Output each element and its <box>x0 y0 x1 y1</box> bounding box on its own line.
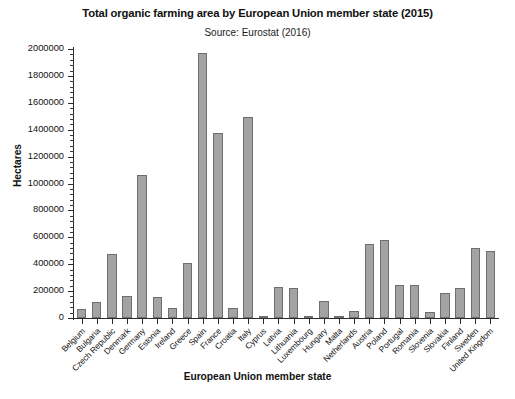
bar <box>198 53 207 318</box>
y-tick-label: 1600000 <box>0 97 64 107</box>
y-tick-label: 1000000 <box>0 178 64 188</box>
bar <box>92 302 101 318</box>
bar-chart: Total organic farming area by European U… <box>0 0 515 399</box>
bar <box>334 316 343 318</box>
x-tick <box>475 319 476 324</box>
bar <box>137 175 146 318</box>
y-tick-label: 1800000 <box>0 70 64 80</box>
x-tick <box>142 319 143 324</box>
bar <box>380 240 389 318</box>
bar <box>304 316 313 318</box>
x-tick <box>82 319 83 324</box>
x-tick <box>127 319 128 324</box>
bar <box>243 117 252 318</box>
bar <box>153 297 162 318</box>
x-tick <box>430 319 431 324</box>
y-tick-label: 1200000 <box>0 151 64 161</box>
x-tick <box>203 319 204 324</box>
bar <box>274 287 283 318</box>
x-tick <box>354 319 355 324</box>
x-tick <box>460 319 461 324</box>
y-tick-label: 1400000 <box>0 124 64 134</box>
plot-area <box>74 49 498 318</box>
x-tick <box>400 319 401 324</box>
bar <box>183 263 192 318</box>
x-tick <box>188 319 189 324</box>
y-tick-label: 600000 <box>0 231 64 241</box>
y-tick-label: 0 <box>0 312 64 322</box>
y-tick-label: 200000 <box>0 285 64 295</box>
x-tick <box>112 319 113 324</box>
bar <box>228 308 237 318</box>
y-tick-label: 2000000 <box>0 43 64 53</box>
bar <box>440 293 449 318</box>
bar <box>289 288 298 318</box>
x-tick <box>263 319 264 324</box>
bar <box>395 285 404 318</box>
bar <box>122 296 131 318</box>
bar <box>455 288 464 318</box>
x-tick <box>97 319 98 324</box>
x-tick <box>384 319 385 324</box>
x-tick <box>248 319 249 324</box>
x-tick <box>339 319 340 324</box>
bar <box>471 248 480 318</box>
x-axis-line <box>73 318 499 319</box>
y-tick-label: 800000 <box>0 204 64 214</box>
x-tick <box>490 319 491 324</box>
bar <box>259 316 268 318</box>
x-tick <box>157 319 158 324</box>
bar <box>213 133 222 318</box>
x-tick <box>218 319 219 324</box>
bar <box>77 309 86 318</box>
y-tick-label: 400000 <box>0 258 64 268</box>
bar <box>486 251 495 318</box>
bar <box>410 285 419 318</box>
x-tick <box>233 319 234 324</box>
x-tick <box>415 319 416 324</box>
x-tick <box>172 319 173 324</box>
bar <box>107 254 116 318</box>
bar <box>365 244 374 318</box>
bar <box>168 308 177 318</box>
chart-subtitle: Source: Eurostat (2016) <box>0 27 515 38</box>
bar <box>349 311 358 318</box>
y-tick-major <box>68 318 74 319</box>
x-tick <box>369 319 370 324</box>
x-tick <box>324 319 325 324</box>
x-tick <box>309 319 310 324</box>
x-tick <box>278 319 279 324</box>
chart-title: Total organic farming area by European U… <box>0 7 515 19</box>
x-tick <box>445 319 446 324</box>
bar <box>425 312 434 318</box>
x-tick <box>294 319 295 324</box>
bar <box>319 301 328 318</box>
